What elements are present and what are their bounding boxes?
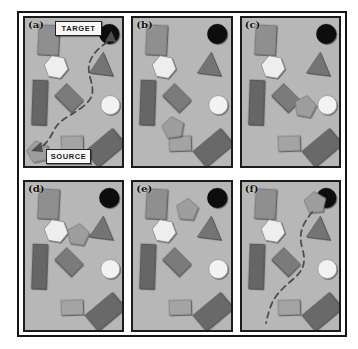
diamond-rotated-rect	[271, 248, 300, 277]
triangle-gray	[89, 52, 113, 76]
white-circle	[317, 260, 336, 279]
diamond-rotated-rect	[55, 84, 84, 113]
dark-rect-left	[248, 80, 265, 125]
panel-e-canvas	[133, 182, 230, 330]
target-circle-black	[208, 24, 228, 44]
small-rect-bottom	[278, 136, 301, 152]
figure-frame: (a) TARGET SOURCE (b) (c) (d) (e) (f)	[17, 11, 347, 337]
panel-e-label: (e)	[136, 182, 152, 196]
panel-f-canvas	[242, 182, 339, 330]
dark-rect-left	[31, 80, 48, 125]
panel-c-canvas	[242, 18, 339, 166]
hexagon-white	[44, 56, 68, 79]
panel-a: (a) TARGET SOURCE	[23, 16, 124, 168]
panel-c: (c)	[240, 16, 341, 168]
rotated-rect-bottom-right	[301, 128, 339, 166]
hexagon-white	[44, 220, 68, 243]
panel-d-canvas	[25, 182, 122, 330]
figure-page: { "figure": { "background": "#ffffff", "…	[0, 0, 358, 349]
panel-a-label: (a)	[28, 18, 44, 32]
small-rect-bottom	[278, 300, 301, 316]
dark-rect-left	[140, 244, 157, 289]
hexagon-white	[153, 220, 177, 243]
triangle-gray	[89, 216, 113, 240]
panel-d-label: (d)	[28, 182, 44, 196]
pentagon-moving-object	[161, 115, 186, 139]
panel-grid: (a) TARGET SOURCE (b) (c) (d) (e) (f)	[23, 16, 341, 332]
small-rect-bottom	[169, 300, 192, 316]
white-circle	[209, 260, 228, 279]
white-circle	[317, 96, 336, 115]
rotated-rect-bottom-right	[85, 292, 123, 330]
rotated-rect-bottom-right	[193, 128, 231, 166]
diamond-rotated-rect	[163, 248, 192, 277]
diamond-rotated-rect	[55, 248, 84, 277]
panel-f: (f)	[240, 180, 341, 332]
target-circle-black	[316, 24, 336, 44]
dark-rect-left	[31, 244, 48, 289]
target-circle-black	[208, 188, 228, 208]
triangle-gray	[198, 52, 222, 76]
panel-f-label: (f)	[245, 182, 259, 196]
rotated-rect-bottom-right	[193, 292, 231, 330]
hexagon-white	[153, 56, 177, 79]
small-rect-bottom	[61, 300, 84, 316]
pentagon-moving-object	[66, 222, 91, 246]
diamond-rotated-rect	[163, 84, 192, 113]
panel-e: (e)	[131, 180, 232, 332]
small-rect-bottom	[169, 136, 192, 152]
panel-b-canvas	[133, 18, 230, 166]
target-circle-black	[99, 188, 119, 208]
hexagon-white	[261, 220, 285, 243]
panel-b: (b)	[131, 16, 232, 168]
panel-b-label: (b)	[136, 18, 152, 32]
white-circle	[209, 96, 228, 115]
dark-rect-left	[140, 80, 157, 125]
panel-c-label: (c)	[245, 18, 261, 32]
triangle-gray	[306, 52, 330, 76]
dark-rect-left	[248, 244, 265, 289]
panel-a-canvas	[25, 18, 122, 166]
source-label-box: SOURCE	[46, 149, 91, 164]
white-circle	[101, 96, 120, 115]
panel-d: (d)	[23, 180, 124, 332]
target-label-box: TARGET	[55, 21, 102, 36]
triangle-gray	[198, 216, 222, 240]
rotated-rect-bottom-right	[301, 292, 339, 330]
pentagon-moving-object	[176, 198, 200, 221]
white-circle	[101, 260, 120, 279]
triangle-gray	[306, 216, 330, 240]
hexagon-white	[261, 56, 285, 79]
